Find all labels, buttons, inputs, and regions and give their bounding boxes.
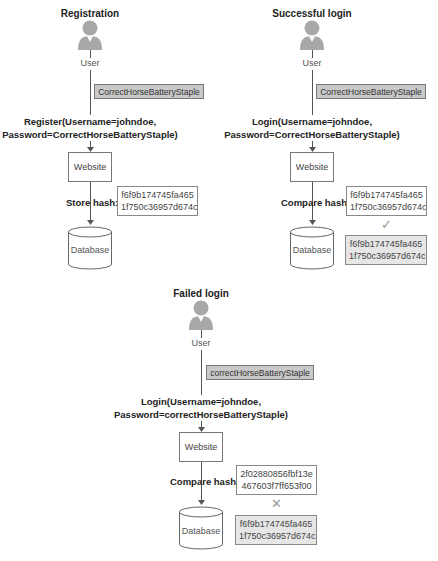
user-icon (299, 20, 325, 50)
hash-label: Compare hash: (281, 197, 350, 208)
message-line: Password=CorrectHorseBatteryStaple) (217, 128, 407, 141)
website-box: Website (290, 152, 334, 182)
panel-title: Successful login (252, 8, 372, 19)
hash-line: f6f9b174745fa465 (349, 238, 423, 250)
message-line: Password=CorrectHorseBatteryStaple) (0, 128, 185, 141)
actor-label: User (70, 58, 110, 68)
panel-title: Failed login (151, 288, 251, 299)
lifeline (90, 50, 91, 58)
website-box: Website (68, 152, 112, 182)
hash-line: 1f750c36957d674c (349, 250, 423, 262)
website-box: Website (179, 432, 223, 462)
actor-label: User (292, 58, 332, 68)
database-label: Database (68, 245, 112, 255)
x-mark-icon: ✕ (266, 496, 286, 511)
hash-label: Store hash: (66, 197, 118, 208)
password-note: CorrectHorseBatteryStaple (94, 84, 204, 99)
password-note: CorrectHorseBatteryStaple (316, 84, 426, 99)
stored-hash: f6f9b174745fa465 1f750c36957d674c (345, 235, 427, 265)
message-line: Login(Username=johndoe, (106, 395, 296, 408)
hash-line: 467603f7ff653f00 (240, 480, 313, 492)
user-icon (77, 20, 103, 50)
password-note: correctHorseBatteryStaple (206, 365, 314, 380)
lifeline (201, 330, 202, 338)
login-message: Login(Username=johndoe, Password=Correct… (217, 115, 407, 141)
arrow-head-icon (309, 220, 316, 225)
actor-label: User (181, 338, 221, 348)
arrow-head-icon (198, 500, 205, 505)
hash-line: 1f750c36957d674c (239, 530, 313, 542)
computed-hash: 2f02880856fbf13e 467603f7ff653f00 (236, 465, 317, 495)
lifeline (312, 50, 313, 58)
user-icon (188, 300, 214, 330)
message-line: Password=correctHorseBatteryStaple) (106, 408, 296, 421)
computed-hash: f6f9b174745fa465 1f750c36957d674c (117, 186, 198, 216)
lifeline (312, 70, 313, 115)
hash-label: Compare hash: (170, 476, 239, 487)
hash-line: 1f750c36957d674c (350, 201, 423, 213)
hash-line: 2f02880856fbf13e (240, 468, 313, 480)
message-line: Register(Username=johndoe, (0, 115, 185, 128)
lifeline (201, 350, 202, 395)
hash-line: 1f750c36957d674c (121, 201, 194, 213)
database-label: Database (290, 245, 334, 255)
hash-line: f6f9b174745fa465 (239, 518, 313, 530)
message-line: Login(Username=johndoe, (217, 115, 407, 128)
arrow-head-icon (87, 220, 94, 225)
computed-hash: f6f9b174745fa465 1f750c36957d674c (346, 186, 427, 216)
login-message: Login(Username=johndoe, Password=correct… (106, 395, 296, 421)
checkmark-icon: ✓ (376, 217, 396, 232)
hash-line: f6f9b174745fa465 (121, 189, 194, 201)
register-message: Register(Username=johndoe, Password=Corr… (0, 115, 185, 141)
lifeline (90, 70, 91, 115)
stored-hash: f6f9b174745fa465 1f750c36957d674c (235, 515, 317, 545)
hash-line: f6f9b174745fa465 (350, 189, 423, 201)
panel-title: Registration (40, 8, 140, 19)
database-label: Database (179, 526, 223, 536)
